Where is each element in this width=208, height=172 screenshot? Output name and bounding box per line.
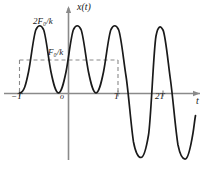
y-axis-arrow [66, 6, 71, 13]
oscillation-plot-figure: x(t) t 2F₀/k F₀/k −T o T 2T [0, 0, 208, 172]
x-tick-label-minus-T: −T [11, 92, 22, 101]
y-axis [66, 6, 71, 160]
x-tick-label-T: T [114, 92, 119, 101]
origin-label: o [60, 93, 64, 101]
response-curve [20, 26, 196, 159]
curve-path [20, 26, 196, 159]
x-axis [4, 91, 200, 96]
label-f0-over-k: F₀/k [48, 48, 63, 57]
y-axis-label: x(t) [77, 2, 91, 12]
plot-svg [0, 0, 208, 172]
x-tick-label-2T: 2T [155, 92, 165, 101]
label-2f0-over-k: 2F₀/k [33, 17, 53, 26]
x-axis-label: t [196, 96, 199, 106]
